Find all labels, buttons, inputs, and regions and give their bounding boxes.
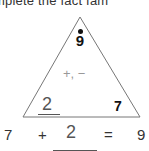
equation-answer[interactable]: 2 (66, 122, 76, 143)
triangle-right-value: 7 (114, 98, 122, 114)
triangle-top-value: 9 (73, 32, 87, 49)
answer-underline (38, 114, 60, 115)
equation-answer-underline (53, 150, 97, 151)
equation-equals: = (104, 126, 113, 143)
triangle-left-answer[interactable]: 2 (42, 94, 52, 115)
equation-result: 9 (137, 126, 145, 143)
equation-operator: + (38, 126, 47, 143)
triangle-operations: +, − (63, 66, 85, 81)
equation-operand: 7 (4, 126, 12, 143)
